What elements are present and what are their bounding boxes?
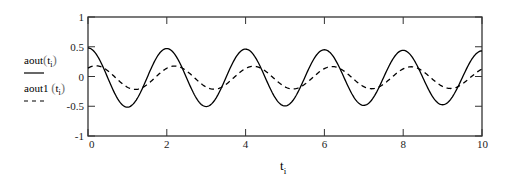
dashed-line-swatch-icon (24, 98, 44, 104)
x-tick-label: 8 (400, 138, 406, 150)
y-tick-label: -1 (75, 130, 84, 142)
y-tick-label: 0.5 (70, 41, 84, 53)
legend-item-aout1: aout1 (ti) (24, 80, 65, 104)
x-tick-label: 10 (477, 138, 489, 150)
y-tick-label: 0 (79, 71, 85, 83)
legend-label: aout (24, 54, 43, 66)
legend-label: aout1 (24, 82, 48, 94)
x-tick-label: 2 (164, 138, 170, 150)
x-tick-label: 0 (89, 138, 95, 150)
series-aout-line (88, 48, 482, 107)
x-tick-label: 6 (322, 138, 328, 150)
line-chart: 10.50-0.5-10246810 (0, 0, 512, 183)
legend-item-aout: aout(ti) (24, 52, 57, 76)
x-tick-label: 4 (243, 138, 249, 150)
x-axis-label: ti (280, 158, 286, 176)
solid-line-swatch-icon (24, 70, 44, 76)
y-tick-label: -0.5 (67, 100, 85, 112)
y-tick-label: 1 (79, 11, 85, 23)
